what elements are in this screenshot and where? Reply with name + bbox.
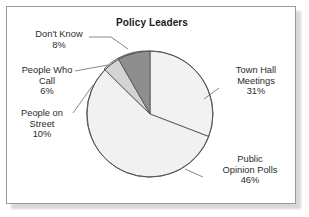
slice-label-people-who-call-line1: People Who <box>22 65 73 75</box>
slice-label-town-hall-meetings: Town Hall Meetings 31% <box>221 65 291 97</box>
leader-line-public-opinion-polls <box>185 169 203 177</box>
slice-label-public-opinion-polls: Public Opinion Polls 46% <box>207 154 293 186</box>
slice-value-dont-know: 8% <box>23 40 95 51</box>
slice-label-dont-know: Don't Know 8% <box>23 29 95 50</box>
slice-label-people-who-call: People Who Call 6% <box>9 65 85 97</box>
chart-panel: Policy Leaders Don't Know <box>6 6 296 204</box>
slice-label-people-on-street-line2: Street <box>7 119 77 130</box>
slice-label-people-who-call-line2: Call <box>9 76 85 87</box>
slice-label-dont-know-line1: Don't Know <box>35 29 82 39</box>
slice-value-public-opinion-polls: 46% <box>207 175 293 186</box>
slice-label-people-on-street-line1: People on <box>21 108 63 118</box>
slice-label-town-hall-meetings-line2: Meetings <box>221 76 291 87</box>
slice-label-public-opinion-polls-line1: Public <box>237 154 262 164</box>
slice-label-town-hall-meetings-line1: Town Hall <box>236 65 276 75</box>
slice-value-town-hall-meetings: 31% <box>221 86 291 97</box>
slice-value-people-on-street: 10% <box>7 129 77 140</box>
pie-chart-screenshot: Policy Leaders Don't Know <box>0 0 309 217</box>
slice-label-people-on-street: People on Street 10% <box>7 108 77 140</box>
slice-label-public-opinion-polls-line2: Opinion Polls <box>207 165 293 176</box>
slice-value-people-who-call: 6% <box>9 86 85 97</box>
